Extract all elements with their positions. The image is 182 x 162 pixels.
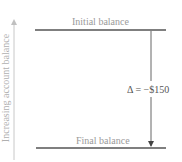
change-label: Δ = −$150 bbox=[127, 83, 169, 97]
initial-balance-label: Initial balance bbox=[72, 16, 129, 28]
y-axis-label: Increasing account balance bbox=[0, 32, 12, 144]
energy-level-diagram: Increasing account balance Initial balan… bbox=[0, 0, 182, 162]
final-balance-label: Final balance bbox=[76, 135, 130, 147]
